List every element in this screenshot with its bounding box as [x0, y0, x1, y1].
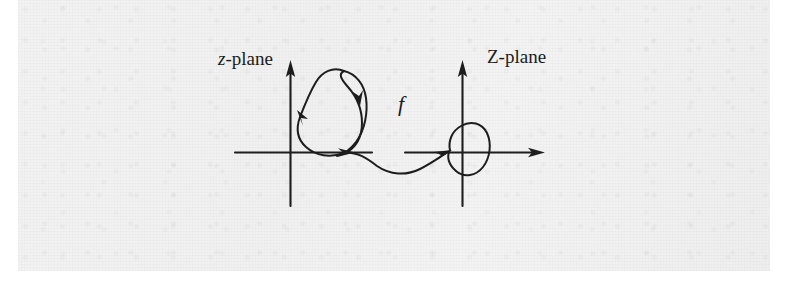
- z-plane-contour: [297, 69, 367, 156]
- diagram-artwork: .ink { fill: none; stroke: #1d1d1d; stro…: [0, 0, 795, 283]
- Z-plane-label: Z-plane: [487, 47, 546, 66]
- z-plane-label: z-plane: [218, 49, 273, 68]
- Z-plane-axes: [405, 60, 545, 206]
- Z-plane-contour: [448, 123, 490, 175]
- z-plane-outer-loop: [298, 69, 362, 155]
- Z-plane-loop: [448, 123, 490, 175]
- map-function-label: f: [398, 93, 404, 115]
- z-plane-label-suffix: -plane: [225, 48, 272, 69]
- z-plane-axes: [235, 60, 372, 206]
- transfer-curve-path: [344, 152, 449, 174]
- figure-canvas: .ink { fill: none; stroke: #1d1d1d; stro…: [0, 0, 795, 283]
